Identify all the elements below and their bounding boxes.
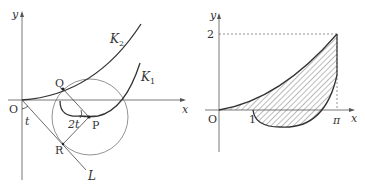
left-x-label: x — [182, 103, 189, 116]
angle-2t-arc — [80, 110, 82, 118]
right-figure: y 2 O 1 π x — [205, 9, 358, 152]
angle-t-label: t — [25, 115, 30, 128]
diagram-canvas: y x O K2 K1 Q P R L t 2t y 2 O 1 π — [0, 0, 365, 185]
line-l — [22, 100, 86, 170]
k1-label: K1 — [140, 70, 155, 86]
x-tick-pi: π — [332, 114, 341, 127]
point-p — [87, 115, 90, 118]
left-figure: y x O K2 K1 Q P R L t 2t — [8, 8, 189, 183]
left-origin-label: O — [9, 103, 18, 116]
y-tick-2: 2 — [207, 28, 214, 41]
point-q-label: Q — [55, 77, 64, 90]
right-origin-label: O — [208, 113, 217, 126]
right-y-label: y — [209, 9, 217, 22]
angle-t-arc — [22, 106, 28, 109]
left-y-arrow-icon — [20, 11, 24, 17]
left-y-label: y — [11, 8, 19, 21]
line-l-label: L — [87, 169, 96, 183]
curve-k2 — [22, 24, 141, 100]
curve-k1 — [60, 63, 140, 117]
angle-2t-label: 2t — [67, 118, 80, 131]
right-x-label: x — [351, 112, 358, 125]
point-r-label: R — [55, 144, 64, 157]
point-p-label: P — [92, 119, 100, 132]
left-x-arrow-icon — [180, 98, 186, 102]
hatched-region — [215, 30, 345, 135]
k2-label: K2 — [109, 32, 124, 48]
x-tick-1: 1 — [249, 113, 256, 126]
right-y-arrow-icon — [217, 13, 221, 19]
segment-qp — [63, 89, 89, 117]
